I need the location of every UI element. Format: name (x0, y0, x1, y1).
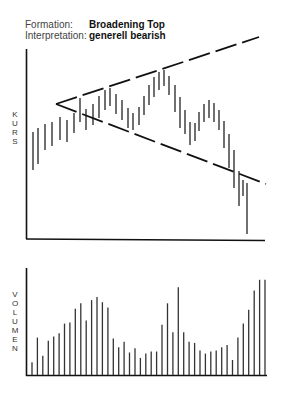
price-panel (26, 37, 266, 241)
price-bars (33, 70, 247, 234)
volume-bars (32, 280, 265, 375)
volume-panel (26, 268, 267, 376)
broadening-top-chart (0, 0, 281, 398)
price-x-axis (26, 239, 265, 241)
trendline (56, 37, 259, 104)
